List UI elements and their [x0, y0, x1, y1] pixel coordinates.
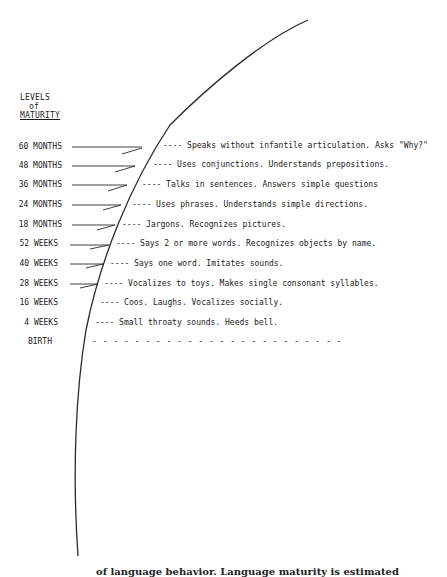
header-line2: of [20, 102, 60, 111]
level-label: 28 WEEKS [0, 279, 58, 289]
level-label: 4 WEEKS [0, 318, 58, 328]
level-description: ---- Vocalizes to toys. Makes single con… [104, 279, 379, 289]
figure-caption-partial: of language behavior. Language maturity … [96, 566, 399, 577]
level-description: ---- Says one word. Imitates sounds. [110, 259, 283, 269]
level-description: ---- Uses phrases. Understands simple di… [132, 200, 368, 210]
level-description: ---- Coos. Laughs. Vocalizes socially. [100, 298, 283, 308]
level-label: BIRTH [0, 337, 52, 347]
level-label: 24 MONTHS [0, 200, 62, 210]
level-label: 52 WEEKS [0, 239, 58, 249]
level-label: 36 MONTHS [0, 180, 62, 190]
level-label: 18 MONTHS [0, 220, 62, 230]
level-description: ---- Small throaty sounds. Heeds bell. [95, 318, 278, 328]
levels-header: LEVELS of MATURITY [20, 93, 60, 120]
level-description: ---- Jargons. Recognizes pictures. [122, 220, 286, 230]
level-label: 16 WEEKS [0, 298, 58, 308]
level-description: ---- Talks in sentences. Answers simple … [142, 180, 378, 190]
level-description: ---- Uses conjunctions. Understands prep… [153, 160, 389, 170]
header-line3: MATURITY [20, 111, 60, 120]
level-label: 60 MONTHS [0, 142, 62, 152]
level-description: ---- Speaks without infantile articulati… [163, 141, 428, 151]
birth-dashed-line: - - - - - - - - - - - - - - - - - - - - … [92, 337, 342, 347]
level-label: 40 WEEKS [0, 259, 58, 269]
header-line1: LEVELS [20, 93, 60, 102]
level-label: 48 MONTHS [0, 161, 62, 171]
level-description: ---- Says 2 or more words. Recognizes ob… [116, 239, 376, 249]
